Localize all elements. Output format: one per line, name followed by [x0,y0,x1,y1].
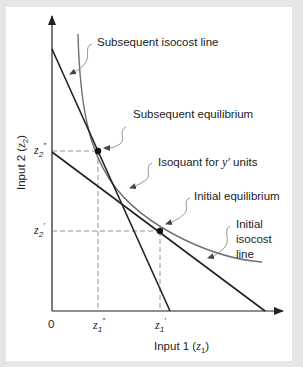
y-axis-label: Input 2 (z2) [14,135,30,190]
x-axis-label: Input 1 (z1) [154,339,209,355]
isoquant-label: Isoquant for y′ units [158,155,258,169]
subsequent-isocost-line [52,49,170,311]
x-tick-z1-prime: z1′ [154,316,166,334]
initial-isocost-label-3: line [236,248,254,260]
initial-isocost-label-2: isocost [236,233,273,245]
y-tick-z2-prime: z2′ [33,221,45,239]
initial-equilibrium-point [157,228,163,234]
subsequent-equilibrium-point [95,148,101,154]
dashed-guides [52,151,160,311]
origin-label: 0 [48,318,54,330]
subsequent-isocost-label: Subsequent isocost line [97,36,218,48]
y-tick-z2-double-prime: z2″ [33,141,47,159]
subsequent-equilibrium-label: Subsequent equilibrium [133,108,253,120]
x-tick-z1-double-prime: z1″ [92,316,106,334]
initial-equilibrium-label: Initial equilibrium [194,190,280,202]
initial-isocost-label-1: Initial [236,218,263,230]
isoquant-diagram: Subsequent isocost line Subsequent equil… [0,0,303,367]
